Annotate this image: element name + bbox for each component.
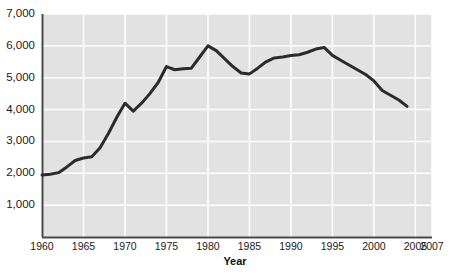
x-axis-title: Year: [223, 255, 247, 267]
y-axis-tick-label: 6,000: [6, 39, 35, 51]
y-axis-tick-labels: 1,0002,0003,0004,0005,0006,0007,000: [6, 7, 35, 210]
x-axis-tick-label: 1965: [72, 240, 96, 252]
y-axis-tick-label: 5,000: [6, 71, 35, 83]
x-axis-tick-label: 1975: [155, 240, 179, 252]
x-axis-tick-label: 1995: [321, 240, 345, 252]
x-axis-tick-label: 2000: [362, 240, 386, 252]
x-axis-tick-label: 1960: [30, 240, 54, 252]
chart-container: 1,0002,0003,0004,0005,0006,0007,000 1960…: [0, 0, 455, 276]
x-axis-tick-label: 1980: [196, 240, 220, 252]
y-axis-tick-label: 3,000: [6, 134, 35, 146]
y-axis-tick-label: 4,000: [6, 103, 35, 115]
x-axis-tick-label: 2007: [420, 240, 444, 252]
y-axis-tick-label: 1,000: [6, 198, 35, 210]
line-chart: 1,0002,0003,0004,0005,0006,0007,000 1960…: [0, 0, 455, 276]
x-axis-tick-labels: 1960196519701975198019851990199520002005…: [30, 240, 444, 252]
y-axis-tick-label: 2,000: [6, 166, 35, 178]
x-axis-tick-label: 1990: [279, 240, 303, 252]
x-axis-tick-label: 1985: [238, 240, 262, 252]
y-axis-tick-label: 7,000: [6, 7, 35, 19]
x-axis-tick-label: 1970: [113, 240, 137, 252]
